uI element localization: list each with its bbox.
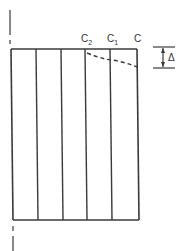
strip-line-1 <box>36 49 38 220</box>
strip-line-3-c2 <box>85 49 87 220</box>
plate-outline <box>11 49 139 220</box>
strip-line-2 <box>61 49 63 220</box>
label-c1: C1 <box>107 33 118 46</box>
strip-deflection-diagram: C2 C1 C Δ <box>0 0 183 251</box>
label-c: C <box>134 33 141 44</box>
strip-line-4-c1 <box>110 49 112 220</box>
label-delta: Δ <box>168 52 175 63</box>
deflection-curve <box>87 53 137 67</box>
label-c2: C2 <box>81 33 92 46</box>
strip-dividers <box>36 49 112 220</box>
